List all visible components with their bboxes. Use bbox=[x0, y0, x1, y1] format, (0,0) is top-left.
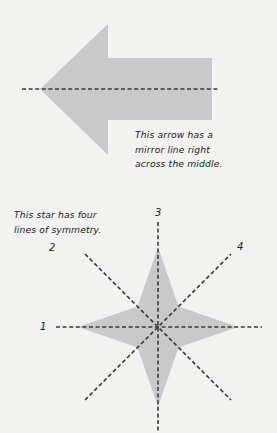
star-line-label-2: 2 bbox=[49, 243, 55, 253]
star-line-label-3: 3 bbox=[155, 208, 161, 218]
worksheet-page: This arrow has a mirror line right acros… bbox=[0, 0, 277, 433]
star-line-label-4: 4 bbox=[237, 242, 243, 252]
star-line-label-1: 1 bbox=[40, 322, 46, 332]
star-figure-group bbox=[56, 222, 262, 432]
arrow-caption: This arrow has a mirror line right acros… bbox=[135, 128, 250, 172]
star-caption: This star has four lines of symmetry. bbox=[14, 208, 139, 237]
